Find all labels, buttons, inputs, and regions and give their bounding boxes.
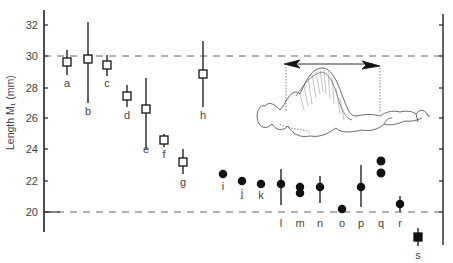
point-l xyxy=(277,180,284,187)
svg-text:24: 24 xyxy=(26,143,38,155)
y-axis-label: Length M₁ (mm) xyxy=(4,75,16,150)
svg-text:20: 20 xyxy=(26,206,38,218)
svg-text:r: r xyxy=(398,217,402,229)
point-p xyxy=(357,183,364,190)
point-k xyxy=(257,180,264,187)
svg-text:a: a xyxy=(64,77,71,89)
point-c xyxy=(103,61,111,69)
series-open-squares xyxy=(63,22,207,174)
arrow-right-icon xyxy=(362,61,380,69)
point-r xyxy=(396,200,403,207)
svg-text:30: 30 xyxy=(26,50,38,62)
point-b xyxy=(84,55,92,63)
svg-text:i: i xyxy=(222,180,224,192)
tooth-illustration xyxy=(257,60,430,137)
point-d xyxy=(123,92,131,100)
point-q-1 xyxy=(377,157,385,165)
svg-text:p: p xyxy=(358,217,364,229)
y-tick-labels: 32 30 28 26 24 22 20 xyxy=(26,19,38,218)
point-s xyxy=(414,233,422,241)
svg-text:k: k xyxy=(258,189,264,201)
point-g xyxy=(179,158,187,166)
svg-text:j: j xyxy=(240,187,243,199)
series-filled-square xyxy=(414,228,422,246)
svg-text:o: o xyxy=(339,217,345,229)
point-n xyxy=(316,183,323,190)
svg-text:f: f xyxy=(162,148,166,160)
svg-text:m: m xyxy=(295,217,304,229)
svg-text:d: d xyxy=(124,109,130,121)
chart-canvas: Length M₁ (mm) 32 30 28 26 24 22 20 xyxy=(0,0,453,263)
svg-text:32: 32 xyxy=(26,19,38,31)
svg-text:h: h xyxy=(200,109,206,121)
point-j xyxy=(238,177,245,184)
series-filled-circles xyxy=(219,157,403,212)
svg-text:26: 26 xyxy=(26,112,38,124)
point-h xyxy=(199,70,207,78)
svg-text:22: 22 xyxy=(26,175,38,187)
svg-text:e: e xyxy=(143,143,149,155)
point-a xyxy=(63,58,71,66)
point-f xyxy=(160,136,168,144)
svg-text:c: c xyxy=(104,77,110,89)
point-i xyxy=(219,170,226,177)
svg-text:28: 28 xyxy=(26,82,38,94)
point-e xyxy=(142,105,150,113)
svg-text:g: g xyxy=(180,176,186,188)
point-m-2 xyxy=(296,189,303,196)
point-o xyxy=(338,205,345,212)
svg-text:s: s xyxy=(415,249,421,261)
svg-text:l: l xyxy=(280,217,282,229)
point-labels: a b c d e f g h i j k l m n o p q r s xyxy=(64,77,421,261)
point-q-2 xyxy=(377,169,385,177)
svg-text:n: n xyxy=(317,217,323,229)
svg-text:b: b xyxy=(85,105,91,117)
svg-text:q: q xyxy=(378,217,384,229)
